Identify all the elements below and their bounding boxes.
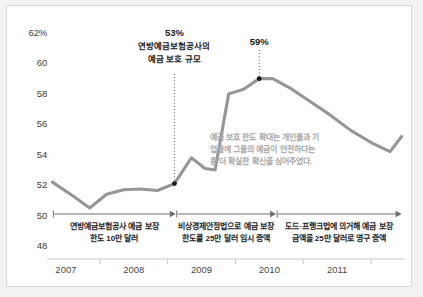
band-3-line-1: 도드·프랭크법에 의거해 예금 보장: [285, 221, 392, 233]
band-label-3: 도드·프랭크법에 의거해 예금 보장 금액을 25만 달러로 영구 증액: [285, 221, 392, 245]
chart-figure: 62%60585654525048 20072008200920102011 5…: [0, 0, 423, 297]
x-tick-2007: 2007: [55, 264, 76, 275]
band-label-1: 연방예금보험공사 예금 보장 한도 10만 달러: [70, 221, 158, 245]
note-line-1: 예금 보호 한도 확대는 개인들과 기: [210, 132, 338, 144]
band-2-line-2: 한도를 25만 달러 임시 증액: [178, 233, 273, 245]
callout-53-line-2: 예금 보호 규모: [138, 53, 210, 65]
band-2-line-1: 비상경제안정법으로 예금 보장: [178, 221, 273, 233]
note-line-2: 업들에 그들의 예금이 안전하다는: [210, 144, 338, 156]
band-1-line-1: 연방예금보험공사 예금 보장: [70, 221, 158, 233]
x-tick-2010: 2010: [259, 264, 280, 275]
note-line-3: 좀 더 확실한 확신을 심어주었다.: [210, 156, 338, 168]
x-tick-2008: 2008: [123, 264, 144, 275]
band-1-line-2: 한도 10만 달러: [70, 233, 158, 245]
callout-53-line-1: 연방예금보험공사의: [138, 40, 210, 52]
annotation-callout-53: 53% 연방예금보험공사의 예금 보호 규모: [138, 26, 210, 65]
chart-panel: 62%60585654525048 20072008200920102011 5…: [6, 5, 412, 287]
band-3-line-2: 금액을 25만 달러로 영구 증액: [285, 233, 392, 245]
x-tick-2011: 2011: [327, 264, 347, 275]
annotation-callout-59: 59%: [250, 35, 269, 49]
band-label-2: 비상경제안정법으로 예금 보장 한도를 25만 달러 임시 증액: [178, 221, 273, 245]
callout-53-percent: 53%: [138, 26, 210, 39]
callout-59-percent: 59%: [250, 35, 269, 48]
annotation-note-text: 예금 보호 한도 확대는 개인들과 기 업들에 그들의 예금이 안전하다는 좀 …: [210, 132, 338, 168]
x-tick-2009: 2009: [191, 264, 212, 275]
